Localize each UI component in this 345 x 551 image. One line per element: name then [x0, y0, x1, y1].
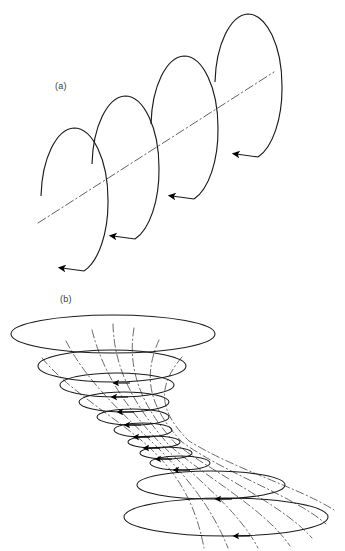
loop-1-arc [41, 128, 108, 271]
loop-3-arc [151, 56, 218, 199]
field-line-5 [132, 328, 312, 538]
field-line-3 [92, 330, 258, 548]
field-line-7 [164, 357, 334, 510]
ring-3 [60, 373, 174, 397]
panel-b-field-lines [42, 324, 334, 548]
field-line-4 [113, 324, 290, 546]
panel-a-group [38, 14, 282, 271]
figure-container: (a) (b) [0, 0, 345, 551]
panel-b-label: (b) [60, 294, 72, 304]
field-line-2 [66, 341, 228, 548]
panel-b-rings [11, 315, 328, 536]
panel-b-group [11, 315, 334, 548]
panel-a-loop-4 [215, 14, 282, 157]
loop-2-arrow [113, 236, 135, 239]
panel-a-loop-1 [41, 128, 108, 271]
ring-11 [124, 498, 328, 536]
panel-a-loop-3 [151, 56, 218, 199]
ring-2 [38, 350, 186, 382]
panel-a-label: (a) [55, 81, 67, 91]
ring-10 [137, 471, 285, 499]
loop-4-arc [215, 14, 282, 157]
loop-4-arrow [236, 154, 258, 157]
panel-b-ring-arrows [114, 383, 250, 536]
ring-1 [11, 315, 215, 353]
diagram-canvas [0, 0, 345, 551]
loop-1-arrow [62, 268, 84, 271]
loop-3-arrow [172, 196, 194, 199]
ring-7 [128, 436, 180, 448]
field-line-1 [42, 358, 204, 548]
